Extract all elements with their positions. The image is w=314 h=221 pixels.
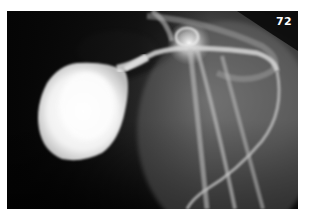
radiograph-image: 72 — [7, 11, 298, 209]
figure-number: 72 — [276, 15, 292, 28]
xray-render — [7, 11, 298, 209]
